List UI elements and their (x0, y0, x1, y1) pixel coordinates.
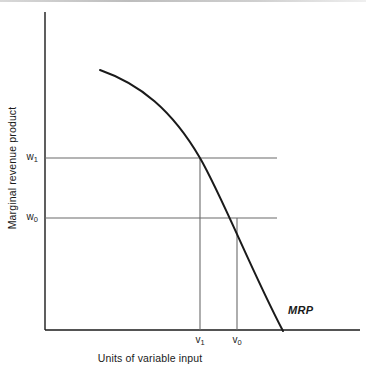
y-tick-symbol-w1: w (27, 151, 34, 162)
y-tick-subscript-w0: 0 (34, 215, 38, 224)
x-tick-label-v1: v1 (186, 334, 214, 345)
mrp-curve (100, 70, 283, 331)
mrp-curve-label: MRP (288, 304, 313, 316)
chart-canvas (0, 0, 366, 372)
x-axis-title: Units of variable input (0, 352, 300, 364)
y-tick-label-w0: w0 (14, 211, 38, 222)
y-tick-symbol-w0: w (27, 211, 34, 222)
x-tick-subscript-v0: 0 (237, 338, 241, 347)
y-axis-title: Marginal revenue product (2, 78, 22, 258)
mrp-figure: Marginal revenue product Units of variab… (0, 0, 366, 372)
x-tick-label-v0: v0 (223, 334, 251, 345)
y-tick-label-w1: w1 (14, 151, 38, 162)
x-axis-title-text: Units of variable input (98, 352, 202, 364)
y-tick-subscript-w1: 1 (34, 155, 38, 164)
x-tick-subscript-v1: 1 (200, 338, 204, 347)
